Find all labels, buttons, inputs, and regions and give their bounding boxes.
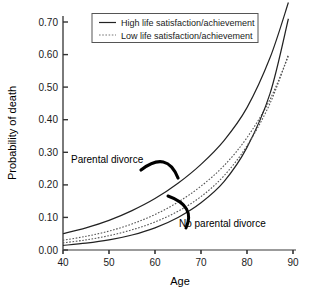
annotation-no-parental-divorce: No parental divorce (179, 218, 266, 229)
y-tick-label-6: 0.60 (39, 49, 59, 60)
x-axis-tick-labels: 40 50 60 70 80 90 (57, 257, 299, 268)
series-line-parental-divorce-low (63, 56, 288, 240)
legend-label-low: Low life satisfaction/achievement (121, 31, 253, 41)
probability-of-death-line-chart: 0.00 0.10 0.20 0.30 0.40 0.50 0.60 0.70 … (0, 0, 310, 295)
y-tick-label-3: 0.30 (39, 147, 59, 158)
chart-container: 0.00 0.10 0.20 0.30 0.40 0.50 0.60 0.70 … (0, 0, 310, 295)
y-tick-label-2: 0.20 (39, 179, 59, 190)
y-tick-label-4: 0.40 (39, 114, 59, 125)
x-tick-label-3: 70 (195, 257, 207, 268)
y-tick-label-7: 0.70 (39, 17, 59, 28)
x-tick-label-2: 60 (149, 257, 161, 268)
x-tick-label-1: 50 (103, 257, 115, 268)
y-tick-label-0: 0.00 (39, 245, 59, 256)
series-line-no-parental-divorce-low (63, 55, 288, 243)
series-line-no-parental-divorce-high (63, 19, 288, 246)
parental-divorce-arc-icon (141, 162, 178, 178)
y-tick-label-1: 0.10 (39, 212, 59, 223)
axes (63, 16, 296, 250)
y-axis-tick-labels: 0.00 0.10 0.20 0.30 0.40 0.50 0.60 0.70 (39, 17, 59, 256)
x-tick-label-0: 40 (57, 257, 69, 268)
annotation-parental-divorce: Parental divorce (71, 154, 144, 165)
x-tick-label-4: 80 (241, 257, 253, 268)
legend: High life satisfaction/achievement Low l… (92, 14, 258, 43)
y-tick-label-5: 0.50 (39, 82, 59, 93)
legend-label-high: High life satisfaction/achievement (121, 18, 255, 28)
y-axis-title: Probability of death (6, 86, 18, 180)
x-axis-title: Age (170, 275, 190, 287)
x-tick-label-5: 90 (287, 257, 299, 268)
